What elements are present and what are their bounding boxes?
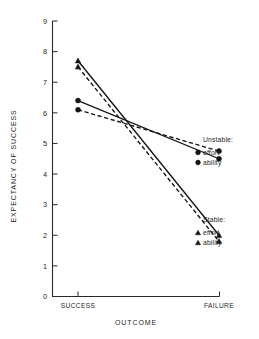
legend-marker-unstable-effort — [196, 150, 201, 155]
y-tick-label-2: 2 — [43, 231, 47, 240]
y-tick-label-8: 8 — [43, 47, 47, 56]
legend-label-unstable-effort: effort — [203, 149, 219, 156]
data-point — [76, 98, 81, 103]
y-tick-label-5: 5 — [43, 139, 47, 148]
x-axis-title: OUTCOME — [115, 319, 157, 326]
y-tick-label-3: 3 — [43, 200, 47, 209]
legend-group-heading-unstable: Unstable: — [203, 136, 233, 143]
x-category-label-failure: FAILURE — [204, 302, 234, 309]
y-tick-label-7: 7 — [43, 78, 47, 87]
legend-label-unstable-ability: ability — [203, 159, 222, 167]
legend-group-heading-stable: Stable: — [203, 216, 225, 223]
legend-label-stable-effort: effort — [203, 229, 219, 236]
expectancy-of-success-line-chart: 0123456789 SUCCESS FAILURE OUTCOME EXPEC… — [0, 0, 259, 339]
x-category-label-success: SUCCESS — [61, 302, 96, 309]
y-axis-title: EXPECTANCY OF SUCCESS — [10, 109, 17, 222]
chart-figure: 0123456789 SUCCESS FAILURE OUTCOME EXPEC… — [0, 0, 259, 339]
y-tick-label-9: 9 — [43, 17, 47, 26]
chart-background — [0, 0, 259, 339]
y-tick-label-4: 4 — [43, 170, 47, 179]
y-tick-label-1: 1 — [43, 262, 47, 271]
y-tick-label-6: 6 — [43, 109, 47, 118]
y-tick-label-0: 0 — [43, 292, 47, 301]
legend-label-stable-ability: ability — [203, 239, 222, 247]
legend-marker-unstable-ability — [196, 160, 201, 165]
data-point — [76, 107, 81, 112]
